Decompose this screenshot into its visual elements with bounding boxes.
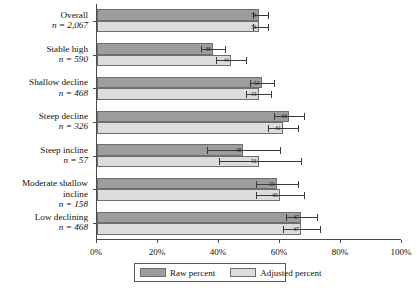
error-bar-cap (250, 80, 251, 87)
error-bar-cap (256, 192, 257, 199)
bar-value-label: 38 (205, 46, 210, 52)
category-label: Steep declinen = 326 (0, 111, 88, 132)
error-bar-cap (298, 181, 299, 188)
bar-group: 5453 (97, 77, 402, 100)
category-name: Steep incline (0, 145, 88, 155)
bar-raw-percent (97, 178, 277, 190)
x-axis-tick-label: 100% (391, 247, 412, 257)
bar-value-label: 67 (294, 226, 299, 232)
y-axis-tick (93, 21, 96, 22)
bar-value-label: 44 (224, 57, 229, 63)
x-axis-line (96, 239, 401, 240)
x-axis-tick (157, 240, 158, 243)
category-count: n = 57 (0, 155, 88, 165)
error-bar-cap (246, 57, 247, 64)
error-bar-line (201, 49, 225, 50)
bar-group: 3844 (97, 43, 402, 66)
x-axis-tick (340, 240, 341, 243)
error-bar-cap (219, 158, 220, 165)
bar-value-label: 53 (251, 158, 256, 164)
error-bar-cap (268, 125, 269, 132)
category-count: n = 468 (0, 222, 88, 232)
error-bar-cap (286, 214, 287, 221)
bar-value-label: 63 (282, 113, 287, 119)
y-axis-tick (93, 88, 96, 89)
category-name: Steep decline (0, 111, 88, 121)
bar-value-label: 61 (276, 125, 281, 131)
error-bar-cap (201, 46, 202, 53)
category-count: n = 326 (0, 121, 88, 131)
bar-value-label: 53 (251, 91, 256, 97)
category-count: n = 2,067 (0, 20, 88, 30)
bar-group: 6361 (97, 111, 402, 134)
error-bar-line (219, 161, 301, 162)
legend-swatch-raw-percent (140, 268, 166, 277)
error-bar-line (246, 94, 270, 95)
legend-item-adjusted-percent: Adjusted percent (225, 268, 321, 278)
y-axis-tick (93, 156, 96, 157)
bar-value-label: 67 (294, 214, 299, 220)
bar-group: 5960 (97, 178, 402, 201)
error-bar-line (207, 150, 280, 151)
error-bar-cap (320, 226, 321, 233)
category-name: Shallow decline (0, 77, 88, 87)
bar-adjusted-percent (97, 223, 301, 235)
category-label: Moderate shallow inclinen = 158 (0, 178, 88, 209)
error-bar-cap (216, 57, 217, 64)
bar-adjusted-percent (97, 21, 259, 33)
error-bar-cap (246, 91, 247, 98)
category-label: Low decliningn = 468 (0, 212, 88, 233)
x-axis-tick-label: 80% (332, 247, 349, 257)
error-bar-line (216, 60, 247, 61)
legend-item-raw-percent: Raw percent (135, 268, 215, 278)
category-name: Overall (0, 10, 88, 20)
bar-raw-percent (97, 111, 289, 123)
error-bar-line (286, 217, 317, 218)
category-label: Stable highn = 590 (0, 44, 88, 65)
bar-raw-percent (97, 43, 213, 55)
bar-raw-percent (97, 9, 259, 21)
error-bar-line (283, 229, 320, 230)
category-name: Moderate shallow incline (0, 178, 88, 199)
bar-value-label: 60 (273, 192, 278, 198)
bar-adjusted-percent (97, 88, 259, 100)
bar-value-label: 54 (254, 80, 259, 86)
x-axis-tick-label: 40% (210, 247, 227, 257)
error-bar-cap (304, 113, 305, 120)
category-count: n = 590 (0, 54, 88, 64)
category-name: Stable high (0, 44, 88, 54)
x-axis-tick (96, 240, 97, 243)
bar-adjusted-percent (97, 55, 231, 67)
y-axis-tick (93, 189, 96, 190)
x-axis-tick-label: 20% (149, 247, 166, 257)
x-axis-tick-label: 60% (271, 247, 288, 257)
legend-swatch-adjusted-percent (230, 268, 256, 277)
bar-group: 4853 (97, 144, 402, 167)
plot-area: 0%20%40%60%80%100% 535338445453636148535… (96, 4, 405, 240)
bar-value-label: 53 (251, 12, 256, 18)
x-axis-tick (279, 240, 280, 243)
category-count: n = 468 (0, 88, 88, 98)
error-bar-cap (317, 214, 318, 221)
error-bar-line (268, 128, 299, 129)
error-bar-cap (301, 158, 302, 165)
bar-adjusted-percent (97, 189, 280, 201)
category-label: Overalln = 2,067 (0, 10, 88, 31)
bar-raw-percent (97, 77, 262, 89)
chart-legend: Raw percent Adjusted percent (134, 263, 286, 282)
error-bar-cap (268, 12, 269, 19)
error-bar-cap (298, 125, 299, 132)
error-bar-line (256, 184, 299, 185)
error-bar-cap (268, 24, 269, 31)
category-label: Steep inclinen = 57 (0, 145, 88, 166)
bar-raw-percent (97, 212, 301, 224)
category-count: n = 158 (0, 199, 88, 209)
category-axis-labels: Overalln = 2,067Stable highn = 590Shallo… (0, 0, 92, 240)
x-axis-tick (218, 240, 219, 243)
error-bar-cap (304, 192, 305, 199)
error-bar-cap (280, 147, 281, 154)
y-axis-tick (93, 122, 96, 123)
error-bar-cap (207, 147, 208, 154)
error-bar-cap (274, 113, 275, 120)
bar-group: 5353 (97, 9, 402, 32)
